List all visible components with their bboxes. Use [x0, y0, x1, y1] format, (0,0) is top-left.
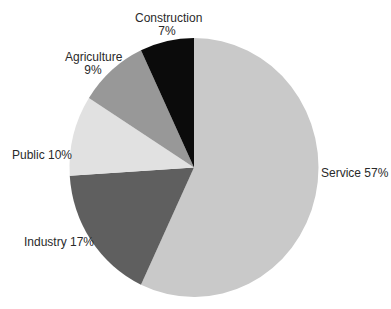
- label-industry: Industry 17%: [24, 236, 94, 249]
- label-service: Service 57%: [321, 167, 388, 180]
- label-industry-text: Industry 17%: [24, 236, 94, 249]
- label-agriculture: Agriculture 9%: [65, 51, 121, 77]
- label-construction: Construction 7%: [135, 12, 199, 38]
- label-construction-value: 7%: [135, 25, 199, 38]
- label-service-text: Service 57%: [321, 167, 388, 180]
- label-public-text: Public 10%: [12, 149, 72, 162]
- label-public: Public 10%: [12, 149, 72, 162]
- label-agriculture-value: 9%: [65, 64, 121, 77]
